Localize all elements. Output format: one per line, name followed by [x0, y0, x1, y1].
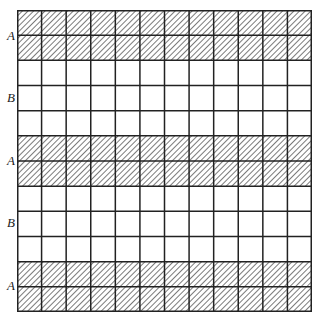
band-label-a-3: A: [1, 278, 15, 294]
band-label-b-2: B: [1, 215, 15, 231]
band-label-b-1: B: [1, 90, 15, 106]
band-label-a-2: A: [1, 153, 15, 169]
grid-drawing: [17, 10, 312, 312]
striped-grid: [17, 10, 312, 312]
band-label-a-1: A: [1, 28, 15, 44]
